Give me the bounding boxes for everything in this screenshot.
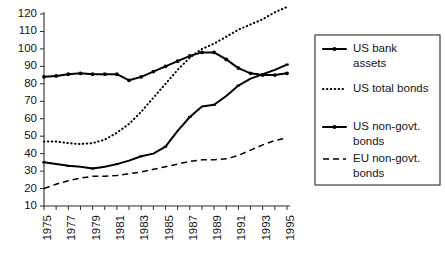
x-axis-tick-label: 1977 — [65, 215, 77, 241]
series-marker — [212, 104, 215, 106]
series-marker — [176, 59, 180, 63]
y-axis-tick-label: 10 — [24, 199, 37, 211]
legend-swatch-marker — [333, 47, 337, 51]
y-axis-tick-label: 90 — [24, 59, 37, 71]
legend-label-line2: bonds — [353, 135, 385, 147]
series-marker — [188, 116, 191, 118]
legend-label: US bank — [353, 42, 397, 54]
legend-label: EU non-govt. — [353, 152, 420, 164]
series-marker — [224, 57, 228, 61]
x-axis-tick-label: 1989 — [211, 215, 223, 241]
series-marker — [237, 66, 241, 70]
series-marker — [200, 51, 204, 55]
series-marker — [91, 167, 94, 169]
series-marker — [42, 161, 45, 163]
series-marker — [42, 75, 46, 79]
series-marker — [67, 165, 70, 167]
legend-label-line2: assets — [353, 57, 386, 69]
series-marker — [103, 72, 107, 76]
series-marker — [54, 74, 58, 78]
series-marker — [261, 73, 264, 75]
x-axis-tick-label: 1983 — [138, 215, 150, 241]
y-axis-tick-label: 100 — [18, 42, 37, 54]
legend-label: US total bonds — [353, 82, 429, 94]
series-marker — [139, 75, 143, 79]
y-axis-tick-label: 70 — [24, 94, 37, 106]
x-axis: 1975197719791981198319851987198919911993… — [41, 206, 296, 241]
series-marker — [273, 73, 277, 77]
series-marker — [115, 72, 119, 76]
chart-legend: US bankassetsUS total bondsUS non-govt.b… — [315, 35, 440, 185]
y-axis-tick-label: 20 — [24, 182, 37, 194]
series-marker — [91, 72, 95, 76]
y-axis: 102030405060708090100110120 — [18, 7, 44, 211]
x-axis-tick-label: 1991 — [235, 215, 247, 241]
x-axis-tick-label: 1993 — [260, 215, 272, 241]
line-chart: 102030405060708090100110120 197519771979… — [0, 0, 445, 256]
x-axis-tick-label: 1981 — [114, 215, 126, 241]
series-line — [44, 7, 287, 144]
chart-figure: 102030405060708090100110120 197519771979… — [0, 0, 445, 256]
y-axis-tick-label: 60 — [24, 112, 37, 124]
series-marker — [249, 71, 253, 75]
x-axis-tick-label: 1987 — [187, 215, 199, 241]
legend-label: US non-govt. — [353, 120, 420, 132]
series-marker — [164, 64, 168, 68]
y-axis-tick-label: 30 — [24, 164, 37, 176]
series-line — [44, 65, 287, 169]
x-axis-tick-label: 1995 — [284, 215, 296, 241]
x-axis-tick-label: 1979 — [90, 215, 102, 241]
series-marker — [237, 85, 240, 87]
y-axis-tick-label: 80 — [24, 77, 37, 89]
series-marker — [127, 78, 131, 82]
series-marker — [164, 146, 167, 148]
series-marker — [66, 72, 70, 76]
y-axis-tick-label: 40 — [24, 147, 37, 159]
series-marker — [285, 64, 288, 66]
data-series-group — [42, 7, 289, 189]
series-marker — [115, 163, 118, 165]
series-marker — [140, 155, 143, 157]
x-axis-tick-label: 1975 — [41, 215, 53, 241]
legend-label-line2: bonds — [353, 167, 385, 179]
series-marker — [79, 71, 83, 75]
x-axis-tick-label: 1985 — [163, 215, 175, 241]
legend-swatch-marker — [333, 125, 337, 129]
series-marker — [285, 71, 289, 75]
y-axis-tick-label: 120 — [18, 7, 37, 19]
series-marker — [151, 70, 155, 74]
series-marker — [212, 51, 216, 55]
y-axis-tick-label: 110 — [19, 24, 37, 36]
y-axis-tick-label: 50 — [24, 129, 37, 141]
